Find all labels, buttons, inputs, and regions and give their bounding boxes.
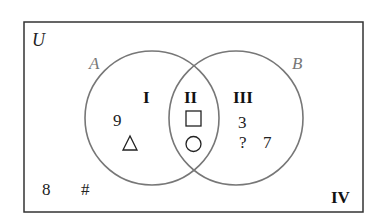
region-iv-label: IV [331, 189, 350, 206]
element-7: 7 [263, 134, 272, 151]
venn-diagram [0, 0, 382, 216]
element-8: 8 [42, 181, 51, 198]
universal-set-box [24, 22, 363, 212]
triangle-symbol [123, 136, 137, 150]
region-i-label: I [143, 89, 150, 106]
region-iii-label: III [233, 89, 253, 106]
circle-symbol [186, 137, 201, 152]
region-ii-label: II [184, 89, 197, 106]
element-3: 3 [238, 114, 247, 131]
set-a-circle [85, 51, 219, 185]
element-question: ? [239, 134, 247, 151]
universal-set-label: U [32, 31, 45, 49]
element-hash: # [81, 181, 90, 198]
square-symbol [186, 111, 201, 126]
set-b-label: B [292, 55, 302, 72]
element-9: 9 [113, 112, 122, 129]
set-b-circle [169, 51, 303, 185]
set-a-label: A [89, 55, 99, 72]
